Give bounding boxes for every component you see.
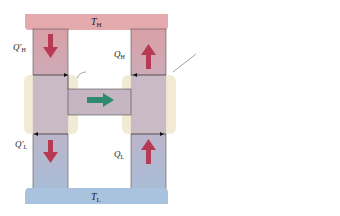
diagram-canvas: TH TL Q'H Q'L QH QL [0, 0, 340, 216]
q-h-fridge-label: QH [114, 49, 126, 60]
q-l-fridge-label: QL [114, 149, 125, 160]
panel-a: TH TL Q'H Q'L QH QL [13, 14, 196, 204]
q-h-engine-label: Q'H [13, 42, 26, 53]
q-l-engine-label: Q'L [15, 139, 27, 150]
